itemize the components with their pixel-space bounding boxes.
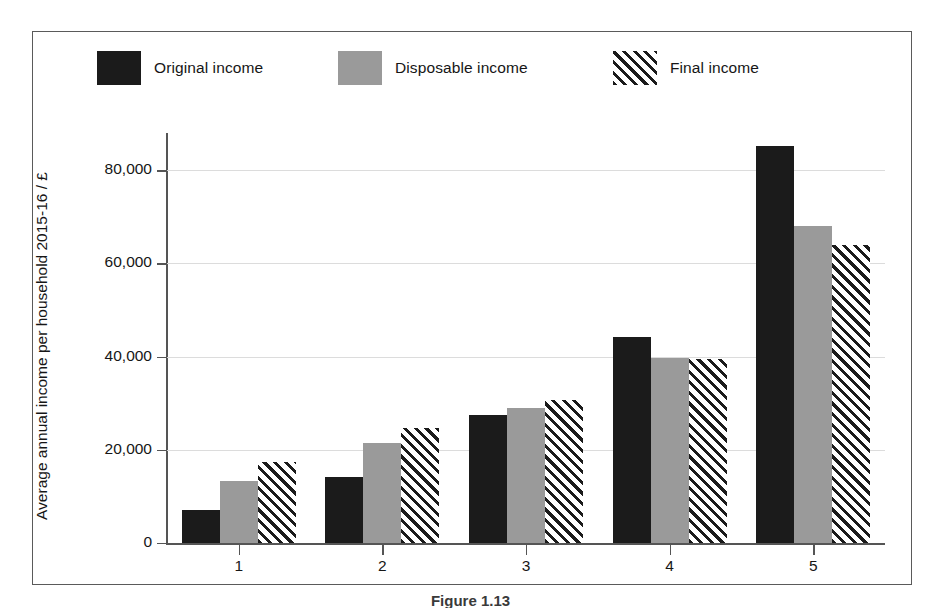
bar [220, 481, 258, 543]
bar [689, 359, 727, 543]
figure-caption: Figure 1.13 [0, 592, 941, 608]
bar [832, 245, 870, 543]
bar [182, 510, 220, 543]
y-tick-mark [157, 543, 167, 544]
y-tick-label: 20,000 [105, 440, 152, 458]
legend-item-disposable-income: Disposable income [338, 50, 528, 86]
x-tick-label: 4 [640, 557, 700, 575]
bar [507, 408, 545, 543]
y-tick-mark [157, 450, 167, 451]
y-tick-mark [157, 357, 167, 358]
bar [325, 477, 363, 543]
bar [401, 428, 439, 543]
hatched-square-swatch [613, 51, 657, 85]
legend-label-disposable-income: Disposable income [395, 59, 528, 77]
y-tick-mark [157, 263, 167, 264]
y-tick-mark [157, 170, 167, 171]
bar [469, 415, 507, 543]
gray-square-swatch [338, 51, 382, 85]
y-tick-label: 40,000 [105, 347, 152, 365]
x-tick-mark [670, 545, 671, 555]
chart-figure: Original income Disposable income Final … [0, 0, 941, 608]
bar [794, 226, 832, 543]
bar [651, 358, 689, 543]
x-tick-label: 1 [209, 557, 269, 575]
y-axis-tick-labels: 020,00040,00060,00080,000 [60, 0, 152, 608]
bar [363, 443, 401, 543]
y-tick-label: 0 [143, 533, 152, 551]
x-tick-mark [526, 545, 527, 555]
x-tick-label: 2 [352, 557, 412, 575]
y-axis-title: Average annual income per household 2015… [33, 136, 51, 556]
bar [258, 462, 296, 543]
y-tick-label: 60,000 [105, 253, 152, 271]
bar [756, 146, 794, 543]
plot-area [167, 133, 885, 543]
legend-label-final-income: Final income [670, 59, 759, 77]
x-tick-mark [813, 545, 814, 555]
bar [613, 337, 651, 543]
x-tick-label: 5 [783, 557, 843, 575]
legend-item-final-income: Final income [613, 50, 759, 86]
bar [545, 400, 583, 544]
y-tick-label: 80,000 [105, 160, 152, 178]
x-tick-mark [239, 545, 240, 555]
chart-legend: Original income Disposable income Final … [97, 50, 797, 90]
x-tick-mark [382, 545, 383, 555]
legend-label-original-income: Original income [154, 59, 263, 77]
x-tick-label: 3 [496, 557, 556, 575]
